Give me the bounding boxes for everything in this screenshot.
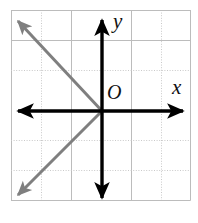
x-axis-label: x — [172, 77, 181, 98]
rays-group — [18, 21, 102, 195]
coordinate-plane-canvas — [0, 0, 198, 223]
origin-label: O — [107, 82, 121, 102]
ray-lower-left — [18, 111, 102, 195]
y-axis-label: y — [113, 11, 122, 32]
coordinate-plane-figure: y x O — [0, 0, 198, 223]
ray-upper-left — [18, 21, 102, 111]
